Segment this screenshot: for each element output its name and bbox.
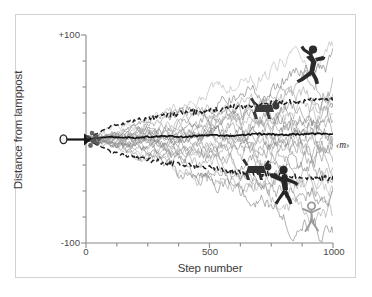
walk-trajectories-group <box>86 42 333 243</box>
mean-annotation-label: ‹m› <box>336 140 349 150</box>
y-axis-label: Distance from lamppost <box>12 50 24 210</box>
jumping-person-icon <box>297 45 326 84</box>
lamppost-icon <box>60 131 101 148</box>
figure-root: Distance from lamppost Step number +100 … <box>0 0 372 297</box>
stick-person-icon <box>303 202 320 231</box>
x-axis-tick-500: 500 <box>194 246 226 257</box>
x-axis-tick-0: 0 <box>76 246 96 257</box>
x-axis-label: Step number <box>86 262 334 274</box>
caption-text <box>0 288 372 297</box>
y-axis-tick-min: -100 <box>46 237 80 248</box>
x-axis-tick-1000: 1000 <box>316 246 352 257</box>
y-axis-tick-max: +100 <box>46 29 80 40</box>
